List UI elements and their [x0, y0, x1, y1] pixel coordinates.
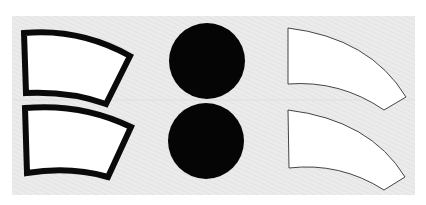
thick-outlined-sleeve-bottom: [25, 107, 131, 177]
solid-circle-top: [169, 23, 245, 99]
solid-circle-bottom: [168, 103, 244, 179]
shapes-illustration: [0, 0, 426, 205]
illustration-canvas: [0, 0, 426, 205]
